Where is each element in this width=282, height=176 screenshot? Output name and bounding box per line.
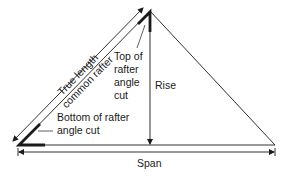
top-cut-label-line4: cut xyxy=(114,89,128,101)
top-cut-leader xyxy=(137,25,145,48)
top-cut-label-line2: rafter xyxy=(114,63,139,75)
span-label: Span xyxy=(137,157,162,169)
bottom-cut-label-line1: Bottom of rafter xyxy=(57,111,130,123)
top-cut-label-line1: Top of xyxy=(114,50,143,62)
top-cut-label-line3: angle xyxy=(114,76,140,88)
bottom-cut-label-line2: angle cut xyxy=(57,124,100,136)
rafter-right-slope xyxy=(150,11,275,145)
rafter-diagram: True length common rafter Top of rafter … xyxy=(0,0,282,176)
top-angle-cut-mark xyxy=(138,12,150,32)
bottom-angle-cut-mark xyxy=(19,124,45,145)
rise-label: Rise xyxy=(155,79,176,91)
